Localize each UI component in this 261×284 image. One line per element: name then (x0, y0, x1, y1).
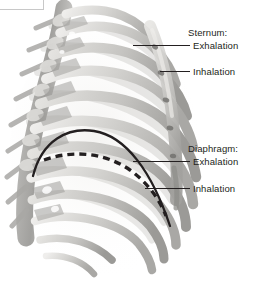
label-sternum-exhalation: Exhalation (193, 40, 238, 51)
label-sternum-title: Sternum: (188, 27, 227, 38)
label-diaphragm-inhalation: Inhalation (193, 183, 235, 194)
label-sternum-inhalation: Inhalation (193, 66, 235, 77)
rib-cage-diagram: Sternum: Exhalation Inhalation Diaphragm… (0, 0, 261, 284)
corner-white-box (0, 0, 44, 10)
label-diaphragm-exhalation: Exhalation (193, 156, 238, 167)
label-diaphragm-title: Diaphragm: (188, 143, 238, 154)
